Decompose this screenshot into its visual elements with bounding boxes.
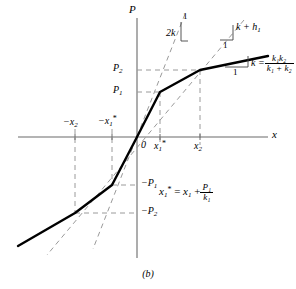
x-tick-neg-x1star: −x1* [98, 115, 117, 128]
slope-k-fraction: k₁k₂ k₁ + k₂ [265, 54, 294, 74]
figure-caption: (b) [0, 268, 296, 279]
figure-canvas [0, 0, 296, 289]
equation-x1star: x1* = x1 + P₁ k₁ [159, 183, 213, 203]
slope-triangle-2k [181, 22, 188, 41]
y-axis-label: P [129, 4, 136, 15]
x-tick-x1star: x1* [154, 140, 166, 153]
y-tick-neg-P2: −P2 [141, 206, 157, 218]
origin-label: 0 [141, 140, 146, 150]
slope-label-k: k = k₁k₂ k₁ + k₂ [251, 54, 294, 74]
x-tick-neg-x2: −x2 [63, 117, 78, 129]
slope-unit-k: 1 [233, 68, 238, 77]
slope-label-k-plus-h1: k + h1 [236, 22, 261, 34]
y-tick-P2: P2 [113, 63, 123, 75]
slope-label-2k: 2k [166, 28, 175, 38]
slope-triangle-k-plus-h1 [220, 25, 233, 40]
slope-unit-2k: 1 [183, 12, 188, 21]
slope-unit-k-plus-h1: 1 [223, 41, 228, 50]
x-tick-x2: x2 [194, 141, 202, 153]
x-axis-label: x [272, 129, 277, 140]
y-tick-P1: P1 [113, 85, 123, 97]
equation-fraction: P₁ k₁ [200, 183, 213, 203]
y-tick-neg-P1: −P1 [141, 178, 157, 190]
